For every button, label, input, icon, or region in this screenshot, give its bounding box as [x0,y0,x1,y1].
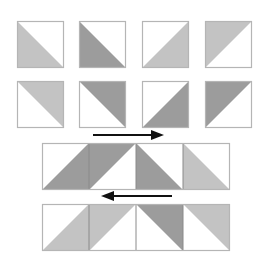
strip-row-2 [42,204,230,251]
hst-block-3 [142,21,189,68]
strip-block-4 [183,204,230,251]
hst-block-5 [17,81,64,128]
hst-block-1 [17,21,64,68]
quilt-diagram [0,0,266,261]
strip-block-1 [42,204,89,251]
strip-block-2 [89,204,136,251]
strip-block-1 [42,143,89,190]
strip-row-1 [42,143,230,190]
strip-block-4 [183,143,230,190]
strip-block-2 [89,143,136,190]
hst-block-7 [142,81,189,128]
hst-block-2 [79,21,126,68]
strip-block-3 [136,143,183,190]
hst-block-8 [205,81,252,128]
hst-block-6 [79,81,126,128]
strip-block-3 [136,204,183,251]
hst-block-4 [205,21,252,68]
